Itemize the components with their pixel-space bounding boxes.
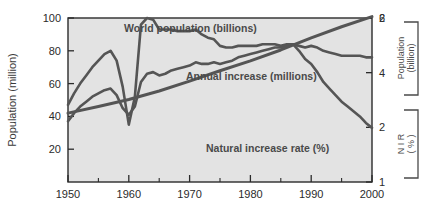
annual-increase-label: Annual increase (millions) [186, 70, 317, 82]
left-tick-label: 20 [49, 143, 61, 155]
natural-increase-rate-label: Natural increase rate (%) [206, 142, 329, 154]
left-tick-label: 60 [49, 78, 61, 90]
right-top-axis-title-line1: Population [396, 37, 406, 80]
right-top-tick-label: 4 [379, 67, 385, 79]
plot-area-background [68, 18, 372, 182]
world-population-label: World population (billions) [124, 22, 257, 34]
right-bottom-axis-title-line1: N I R [396, 133, 406, 154]
bottom-tick-label: 1960 [117, 188, 141, 200]
right-bottom-tick-label: 2 [379, 12, 385, 24]
bottom-tick-label: 1970 [177, 188, 201, 200]
left-tick-label: 100 [43, 12, 61, 24]
chart-svg: 20406080100 195019601970198019902000 246… [0, 0, 435, 220]
population-chart-figure: 20406080100 195019601970198019902000 246… [0, 0, 435, 220]
right-top-tick-label: 2 [379, 121, 385, 133]
bottom-tick-label: 2000 [360, 188, 384, 200]
bottom-tick-label: 1990 [299, 188, 323, 200]
right-bottom-axis-title-line2: ( % ) [406, 134, 416, 153]
left-tick-label: 40 [49, 110, 61, 122]
right-top-axis-title-line2: (billion) [406, 43, 416, 72]
left-tick-label: 80 [49, 45, 61, 57]
left-axis-title: Population (million) [6, 53, 18, 147]
bottom-tick-label: 1950 [56, 188, 80, 200]
right-bottom-tick-label: 1 [379, 176, 385, 188]
bottom-tick-label: 1980 [238, 188, 262, 200]
